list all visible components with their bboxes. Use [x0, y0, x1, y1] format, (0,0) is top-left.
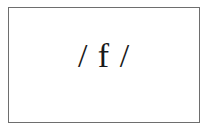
phoneme-text: / f / — [9, 37, 199, 75]
phoneme-card: / f / — [8, 7, 200, 123]
